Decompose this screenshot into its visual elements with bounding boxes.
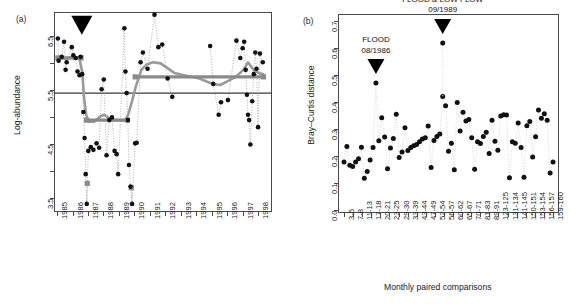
- panel-a-x-tick: [119, 212, 120, 216]
- panel-b-x-tick-label: 123-125: [501, 192, 510, 220]
- panel-b-x-tick-label: 20-21: [383, 201, 392, 220]
- panel-b-x-tick-label: 29-30: [402, 201, 411, 220]
- panel-a-x-tick: [212, 212, 213, 216]
- panel-b-x-tick: [344, 213, 345, 217]
- panel-b-x-tick: [435, 213, 436, 217]
- panel-b-x-tick-label: 131-134: [511, 192, 520, 220]
- panel-b-x-tick: [380, 213, 381, 217]
- panel-b-x-tick: [362, 213, 363, 217]
- panel-a-x-tick: [57, 212, 58, 216]
- panel-a-x-tick-label: 1997: [246, 202, 255, 219]
- panel-b-x-tick: [399, 213, 400, 217]
- panel-a-y-tick-label: 5.5: [46, 91, 55, 102]
- panel-a-x-tick-label: 1985: [60, 202, 69, 219]
- panel-a-y-tick-label: 4.5: [46, 145, 55, 156]
- panel-b-x-tick: [426, 213, 427, 217]
- panel-a-x-tick: [243, 212, 244, 216]
- panel-a-x-tick-label: 1991: [153, 202, 162, 219]
- panel-a-x-tick-label: 1995: [215, 202, 224, 219]
- panel-a-x-tick: [134, 212, 135, 216]
- panel-b-y-tick-label: 0.7: [330, 21, 339, 32]
- panel-b-x-tick-label: 3-5: [347, 209, 356, 220]
- panel-b-y-tick-label: 0.5: [330, 75, 339, 86]
- panel-b-x-tick: [480, 213, 481, 217]
- panel-b-x-tick-label: 56-57: [447, 201, 456, 220]
- panel-b-x-tick: [553, 213, 554, 217]
- panel-a-x-tick-label: 1993: [184, 202, 193, 219]
- panel-b-x-tick-label: 17-18: [374, 201, 383, 220]
- panel-b-x-tick: [462, 213, 463, 217]
- panel-a-y-tick-minor: [50, 63, 54, 64]
- panel-b-x-tick: [408, 213, 409, 217]
- panel-a-x-tick: [103, 212, 104, 216]
- panel-b-x-tick-label: 153-154: [538, 192, 547, 220]
- panel-a-svg: [54, 12, 272, 212]
- panel-a-y-tick-minor: [50, 171, 54, 172]
- panel-a: (a) Log-abundance 3.54.55.56.5 198519861…: [0, 0, 289, 306]
- panel-a-x-tick-label: 1986: [76, 202, 85, 219]
- panel-b-x-tick-label: 65-67: [465, 201, 474, 220]
- panel-a-x-tick: [73, 212, 74, 216]
- panel-b-x-tick-label: 156-157: [547, 192, 556, 220]
- panel-a-label: (a): [16, 14, 26, 24]
- panel-a-x-tick-label: 1998: [261, 202, 270, 219]
- panel-b-label: (b): [303, 16, 313, 26]
- panel-b-x-tick: [489, 213, 490, 217]
- panel-b-x-tick-label: 47-49: [429, 201, 438, 220]
- panel-b-x-tick-label: 70-71: [474, 201, 483, 220]
- panel-b-x-tick-label: 33-39: [411, 201, 420, 220]
- panel-b-x-tick: [417, 213, 418, 217]
- panel-a-x-tick: [181, 212, 182, 216]
- panel-a-x-tick-label: 1994: [199, 202, 208, 219]
- annotation-flood-1986: FLOOD 08/1986: [316, 35, 436, 56]
- panel-b-x-tick-label: 60-62: [456, 201, 465, 220]
- panel-b-x-tick: [444, 213, 445, 217]
- panel-b-x-tick: [471, 213, 472, 217]
- panel-b-x-tick: [453, 213, 454, 217]
- panel-b-y-tick-label: 0.1: [330, 184, 339, 195]
- panel-b-x-tick: [508, 213, 509, 217]
- annotation-flood-1986-line2: 08/1986: [316, 46, 436, 57]
- panel-a-x-tick: [165, 212, 166, 216]
- figure-container: (a) Log-abundance 3.54.55.56.5 198519861…: [0, 0, 578, 306]
- panel-a-y-tick-minor: [50, 117, 54, 118]
- panel-a-x-tick-label: 1990: [137, 202, 146, 219]
- panel-a-x-tick-label: 1987: [91, 202, 100, 219]
- panel-b-x-tick-label: 11-13: [365, 201, 374, 220]
- panel-a-x-tick-label: 1992: [168, 202, 177, 219]
- annotation-flood-lowflow-1989-line2: 09/1989: [383, 5, 503, 16]
- panel-b-y-axis-title: Bray–Curtis distance: [306, 65, 316, 145]
- panel-a-plot-area: [54, 12, 272, 212]
- panel-b-x-tick: [517, 213, 518, 217]
- panel-b-x-tick-label: 81-83: [483, 201, 492, 220]
- panel-a-y-axis-title: Log-abundance: [12, 70, 22, 140]
- panel-a-x-tick-label: 1989: [122, 202, 131, 219]
- panel-a-x-tick: [227, 212, 228, 216]
- panel-a-y-tick-label: 6.5: [46, 37, 55, 48]
- panel-b-x-tick-label: 159-160: [556, 192, 565, 220]
- panel-a-x-tick-label: 1996: [230, 202, 239, 219]
- panel-b-x-tick: [535, 213, 536, 217]
- panel-a-x-tick: [88, 212, 89, 216]
- panel-b-x-tick: [526, 213, 527, 217]
- panel-a-x-tick-label: 1988: [106, 202, 115, 219]
- annotation-flood-1986-line1: FLOOD: [316, 35, 436, 46]
- panel-b-x-tick: [498, 213, 499, 217]
- panel-b-x-tick: [353, 213, 354, 217]
- panel-b-y-tick-label: 0.3: [330, 130, 339, 141]
- panel-b-x-tick-label: 141-145: [520, 192, 529, 220]
- panel-b-x-axis-title: Monthly paired comparisons: [384, 282, 491, 292]
- panel-a-x-tick: [150, 212, 151, 216]
- panel-b-x-tick-label: 23-25: [392, 201, 401, 220]
- panel-a-x-tick: [196, 212, 197, 216]
- panel-b-y-tick-label: 0.0: [330, 211, 339, 222]
- panel-a-y-tick-label: 3.5: [46, 199, 55, 210]
- annotation-flood-lowflow-1989: FLOOD & LOW FLOW 09/1989: [383, 0, 503, 16]
- panel-b-y-tick-label: 0.2: [330, 157, 339, 168]
- panel-b-x-tick-label: 52-54: [438, 201, 447, 220]
- panel-b-x-tick: [389, 213, 390, 217]
- panel-b-x-tick-label: 7-8: [356, 209, 365, 220]
- panel-b-y-tick-label: 0.4: [330, 102, 339, 113]
- panel-b: (b) Bray–Curtis distance 0.00.10.20.30.4…: [289, 0, 578, 306]
- panel-b-x-tick-label: 150-151: [529, 192, 538, 220]
